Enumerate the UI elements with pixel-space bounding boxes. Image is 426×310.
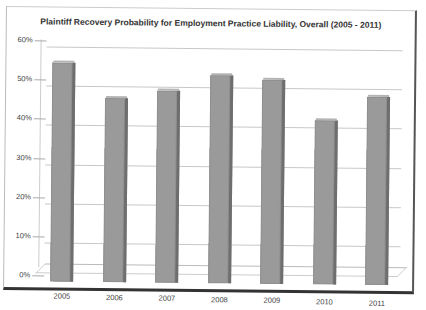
bar-2005 xyxy=(50,62,75,282)
x-tick-label: 2011 xyxy=(357,298,397,307)
x-tick-label: 2010 xyxy=(304,297,344,306)
y-tick-mark xyxy=(35,40,47,41)
y-tick-label: 40% xyxy=(8,113,32,122)
y-tick-mark xyxy=(34,119,46,120)
x-tick-label: 2008 xyxy=(199,295,239,304)
y-axis xyxy=(38,39,41,267)
chart-frame: Plaintiff Recovery Probability for Emplo… xyxy=(3,6,417,294)
gridline xyxy=(47,46,403,51)
x-tick-label: 2007 xyxy=(147,294,187,303)
y-tick-label: 20% xyxy=(7,192,31,201)
y-tick-mark xyxy=(33,158,45,159)
y-tick-label: 10% xyxy=(7,231,31,240)
bar-2006 xyxy=(103,98,128,282)
plot-area: 0%10%20%30%40%50%60%20052006200720082009… xyxy=(7,7,415,11)
y-tick-mark xyxy=(33,197,45,198)
bar-2011 xyxy=(365,97,390,285)
y-tick-label: 60% xyxy=(9,35,33,44)
bar-2009 xyxy=(260,80,285,284)
y-tick-label: 50% xyxy=(8,74,32,83)
bar-2007 xyxy=(155,91,180,283)
y-tick-mark xyxy=(33,236,45,237)
x-tick-label: 2006 xyxy=(94,293,134,302)
x-tick-label: 2009 xyxy=(252,296,292,305)
y-tick-label: 30% xyxy=(7,153,31,162)
y-tick-label: 0% xyxy=(6,270,30,279)
y-tick-mark xyxy=(32,275,44,276)
bar-2008 xyxy=(208,76,233,284)
bar-2010 xyxy=(313,120,338,285)
y-tick-mark xyxy=(34,79,46,80)
x-tick-label: 2005 xyxy=(42,291,82,300)
chart-title: Plaintiff Recovery Probability for Emplo… xyxy=(7,16,415,30)
